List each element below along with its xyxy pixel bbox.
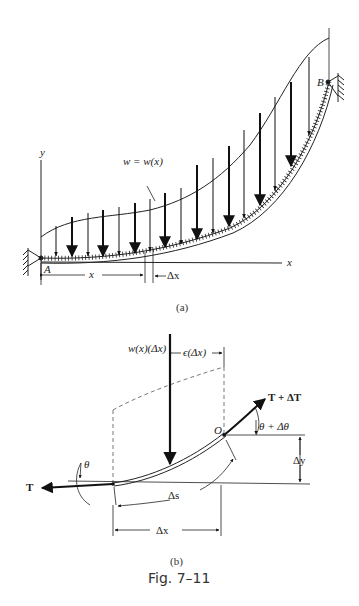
point-b-label: B: [317, 76, 324, 88]
part-a-diagram: [23, 28, 344, 285]
y-axis-label: y: [39, 146, 45, 158]
part-a-sublabel: (a): [176, 301, 189, 314]
cable-top: [41, 82, 329, 258]
delta-s-label: Δs: [168, 489, 179, 501]
angle-right-label: θ + Δθ: [259, 420, 290, 432]
figure-caption: Fig. 7–11: [148, 570, 210, 586]
delta-y-label: Δy: [293, 454, 306, 466]
cable-hatch: [41, 82, 329, 258]
dimension-dx-label: Δx: [167, 269, 180, 281]
point-a-label: A: [43, 263, 51, 275]
load-arrows: [56, 57, 309, 256]
left-wall-support-icon: [23, 248, 43, 276]
delta-x-label: Δx: [156, 524, 169, 536]
dimension-x-label: x: [88, 268, 94, 280]
load-curve: [41, 38, 329, 237]
x-axis-label: x: [286, 256, 292, 268]
tension-left-label: T: [26, 481, 34, 493]
point-o-label: O: [214, 424, 222, 436]
angle-left-label: θ: [84, 458, 90, 470]
figure-canvas: y x w = w(x) A B x Δx (a): [0, 0, 359, 606]
load-function-label: w = w(x): [123, 155, 163, 168]
tension-right-label: T + ΔT: [268, 391, 302, 403]
part-b-sublabel: (b): [170, 555, 183, 568]
part-b-diagram: [42, 334, 310, 536]
point-load-label: w(x)(Δx): [128, 342, 167, 355]
offset-label: ϵ(Δx): [183, 346, 206, 359]
